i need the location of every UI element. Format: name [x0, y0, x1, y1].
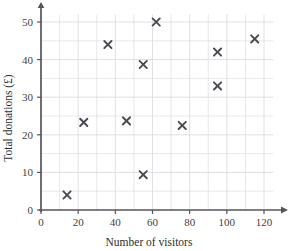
- data-point-marker: [140, 61, 147, 68]
- data-point-marker: [251, 35, 258, 42]
- x-axis-arrow-icon: [281, 206, 288, 213]
- axis-lines: [38, 2, 288, 214]
- data-point-marker: [104, 41, 111, 48]
- y-axis-arrow-icon: [38, 2, 45, 8]
- data-point-marker: [179, 122, 186, 129]
- x-tick-label: 20: [73, 216, 85, 228]
- minor-gridlines: [41, 14, 273, 210]
- data-point-marker: [80, 119, 87, 126]
- data-point-marker: [63, 191, 70, 198]
- x-tick-label: 0: [38, 216, 44, 228]
- y-tick-label: 50: [22, 16, 34, 28]
- x-tick-label: 100: [219, 216, 236, 228]
- x-tick-label: 40: [110, 216, 122, 228]
- x-tick-label: 60: [147, 216, 159, 228]
- x-axis-title: Number of visitors: [106, 236, 193, 248]
- data-point-marker: [214, 48, 221, 55]
- y-axis-title: Total donations (£): [2, 74, 15, 162]
- tick-marks: [37, 22, 264, 214]
- data-point-marker: [214, 82, 221, 89]
- y-tick-label: 30: [22, 91, 34, 103]
- x-tick-label: 80: [184, 216, 196, 228]
- major-gridlines: [41, 14, 273, 210]
- data-point-markers: [63, 18, 258, 198]
- data-point-marker: [123, 117, 130, 124]
- chart-canvas: 020406080100120 01020304050 Number of vi…: [0, 0, 298, 251]
- x-axis-tick-labels: 020406080100120: [38, 216, 273, 228]
- x-tick-label: 120: [256, 216, 273, 228]
- y-tick-label: 20: [22, 129, 34, 141]
- y-tick-label: 10: [22, 166, 34, 178]
- y-tick-label: 40: [22, 54, 34, 66]
- y-tick-label: 0: [28, 204, 34, 216]
- y-axis-tick-labels: 01020304050: [22, 16, 34, 216]
- scatter-plot-figure: 020406080100120 01020304050 Number of vi…: [0, 0, 298, 251]
